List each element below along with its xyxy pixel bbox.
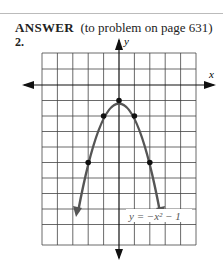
y-axis	[115, 38, 123, 260]
curve-arrow-left	[73, 206, 82, 217]
parabola-graph: x y y = −x² − 1	[0, 0, 223, 262]
y-axis-label: y	[123, 35, 129, 47]
x-axis-label: x	[208, 68, 214, 80]
equation-label: y = −x² − 1	[128, 210, 181, 222]
